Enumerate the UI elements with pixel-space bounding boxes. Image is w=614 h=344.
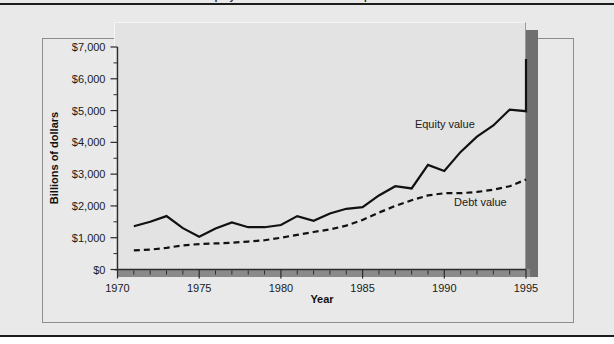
x-tick-label: 1980 bbox=[269, 282, 293, 294]
y-axis-title: Billions of dollars bbox=[48, 112, 60, 204]
axis-spines bbox=[118, 47, 527, 270]
x-tick-label: 1970 bbox=[105, 282, 129, 294]
page-bottom-fill bbox=[0, 337, 614, 344]
equity-value-label: Equity value bbox=[415, 118, 475, 130]
y-tick-label: $4,000 bbox=[72, 136, 106, 148]
y-tick-label: $6,000 bbox=[72, 73, 106, 85]
x-tick-label: 1990 bbox=[432, 282, 456, 294]
debt-value-line bbox=[134, 180, 526, 251]
y-tick-label: $0 bbox=[93, 264, 105, 276]
x-tick-label: 1975 bbox=[187, 282, 211, 294]
debt-value-label: Debt value bbox=[454, 196, 507, 208]
y-axis: $0$1,000$2,000$3,000$4,000$5,000$6,000$7… bbox=[72, 41, 118, 276]
plot-right-wall-shadow bbox=[526, 30, 538, 277]
line-chart: $0$1,000$2,000$3,000$4,000$5,000$6,000$7… bbox=[0, 0, 614, 344]
y-tick-label: $2,000 bbox=[72, 200, 106, 212]
x-axis-title: Year bbox=[310, 293, 334, 305]
equity-value-line bbox=[134, 59, 526, 237]
x-tick-label: 1995 bbox=[514, 282, 538, 294]
x-tick-label: 1985 bbox=[350, 282, 374, 294]
y-tick-label: $5,000 bbox=[72, 105, 106, 117]
y-tick-label: $7,000 bbox=[72, 41, 106, 53]
y-tick-label: $3,000 bbox=[72, 168, 106, 180]
y-tick-label: $1,000 bbox=[72, 232, 106, 244]
figure-page: Equity and Debt Value of U.S. Corporatio… bbox=[0, 0, 614, 344]
